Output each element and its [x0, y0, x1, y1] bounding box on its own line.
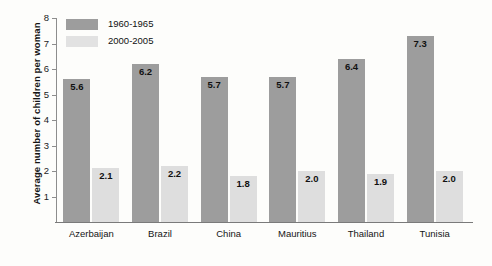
y-tick-label: 5 — [44, 90, 49, 100]
y-tick-label: 4 — [44, 115, 49, 125]
bar-value-label: 2.2 — [161, 169, 188, 179]
bar-value-label: 7.3 — [407, 39, 434, 49]
bar-value-label: 1.9 — [367, 177, 394, 187]
bar-tunisia-series1[interactable]: 2.0 — [436, 171, 463, 222]
x-axis-label-tunisia: Tunisia — [400, 228, 469, 239]
bar-value-label: 6.4 — [338, 62, 365, 72]
bar-mauritius-series0[interactable]: 5.7 — [269, 77, 296, 222]
bar-value-label: 5.6 — [63, 82, 90, 92]
bar-thailand-series0[interactable]: 6.4 — [338, 59, 365, 222]
bar-mauritius-series1[interactable]: 2.0 — [298, 171, 325, 222]
legend-label-series0: 1960-1965 — [108, 19, 153, 29]
y-axis-title: Average number of children per woman — [31, 14, 42, 214]
bar-brazil-series1[interactable]: 2.2 — [161, 166, 188, 222]
bar-value-label: 6.2 — [132, 67, 159, 77]
bar-value-label: 5.7 — [269, 80, 296, 90]
y-tick-label: 8 — [44, 13, 49, 23]
bar-group-china: 5.71.8China — [194, 18, 263, 222]
legend: 1960-1965 2000-2005 — [66, 17, 153, 51]
bar-azerbaijan-series1[interactable]: 2.1 — [92, 168, 119, 222]
legend-swatch-icon-series1 — [66, 36, 98, 47]
bar-china-series1[interactable]: 1.8 — [230, 176, 257, 222]
bar-group-thailand: 6.41.9Thailand — [332, 18, 401, 222]
bar-tunisia-series0[interactable]: 7.3 — [407, 36, 434, 222]
legend-swatch-icon-series0 — [66, 19, 98, 30]
bar-value-label: 1.8 — [230, 179, 257, 189]
legend-item-1: 2000-2005 — [66, 34, 153, 48]
bar-group-tunisia: 7.32.0Tunisia — [400, 18, 469, 222]
x-axis-label-china: China — [194, 228, 263, 239]
x-axis-label-azerbaijan: Azerbaijan — [57, 228, 126, 239]
bar-value-label: 2.0 — [298, 174, 325, 184]
bar-china-series0[interactable]: 5.7 — [201, 77, 228, 222]
x-axis-line — [55, 222, 473, 223]
legend-label-series1: 2000-2005 — [108, 36, 153, 46]
bar-value-label: 2.1 — [92, 171, 119, 181]
bar-azerbaijan-series0[interactable]: 5.6 — [63, 79, 90, 222]
y-tick-label: 6 — [44, 64, 49, 74]
bar-thailand-series1[interactable]: 1.9 — [367, 174, 394, 222]
bar-value-label: 2.0 — [436, 174, 463, 184]
bar-brazil-series0[interactable]: 6.2 — [132, 64, 159, 222]
bar-value-label: 5.7 — [201, 80, 228, 90]
bar-group-mauritius: 5.72.0Mauritius — [263, 18, 332, 222]
x-axis-label-brazil: Brazil — [126, 228, 195, 239]
x-axis-label-thailand: Thailand — [332, 228, 401, 239]
legend-item-0: 1960-1965 — [66, 17, 153, 31]
y-tick-label: 1 — [44, 192, 49, 202]
y-tick-label: 7 — [44, 39, 49, 49]
bar-chart: Average number of children per woman 876… — [0, 0, 492, 266]
y-tick-label: 2 — [44, 166, 49, 176]
y-tick-label: 3 — [44, 141, 49, 151]
x-axis-label-mauritius: Mauritius — [263, 228, 332, 239]
